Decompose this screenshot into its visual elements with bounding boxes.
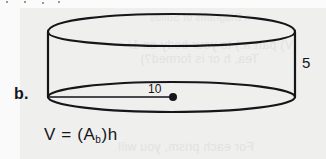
formula-height-symbol: h: [108, 125, 118, 144]
part-label-b: b.: [14, 85, 29, 103]
formula-equals: =: [61, 125, 72, 144]
formula-volume-symbol: V: [44, 125, 56, 144]
base-center-dot: [169, 93, 177, 101]
cylinder-top-rim: [48, 14, 295, 46]
formula-base-area-symbol: A: [83, 125, 95, 144]
height-measurement-label: 5: [302, 54, 310, 71]
volume-formula: V = (Ab)h: [44, 125, 118, 145]
radius-measurement-label: 10: [148, 82, 161, 96]
scanned-page: n Diagrams of Solids V) part a.) to your…: [0, 0, 326, 159]
